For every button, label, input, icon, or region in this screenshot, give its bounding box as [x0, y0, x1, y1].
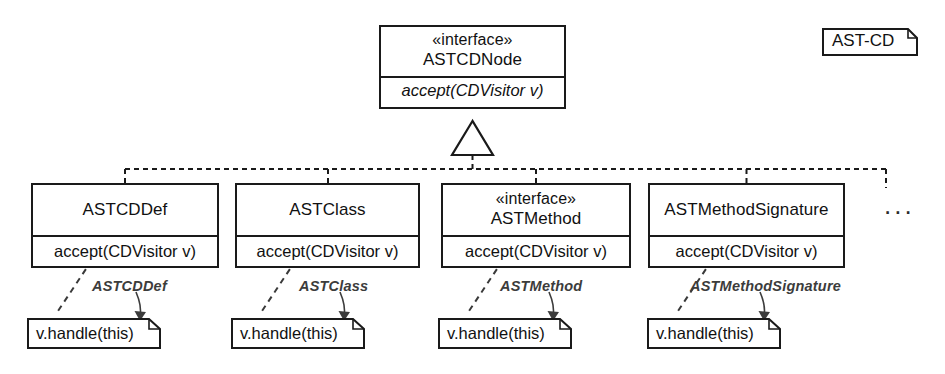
- class-name-label: ASTCDDef: [39, 200, 211, 220]
- more-subclasses-ellipsis: ...: [884, 192, 915, 218]
- class-box-astcdnode[interactable]: «interface» ASTCDNode accept(CDVisitor v…: [379, 25, 566, 109]
- class-box-astcddef[interactable]: ASTCDDef accept(CDVisitor v): [31, 183, 219, 268]
- note-text: v.handle(this): [656, 318, 771, 347]
- operation-accept: accept(CDVisitor v): [381, 78, 564, 107]
- note-annotation-astclass: ASTClass: [299, 278, 368, 294]
- class-name-label: ASTClass: [243, 200, 412, 220]
- anno-arrow-4: [760, 292, 765, 316]
- class-box-astclass[interactable]: ASTClass accept(CDVisitor v): [235, 183, 420, 268]
- diagram-tag-ast-cd[interactable]: AST-CD: [822, 28, 905, 56]
- stereotype-label: «interface»: [387, 31, 558, 50]
- class-name-compartment: ASTMethodSignature: [650, 185, 843, 237]
- class-name-compartment: «interface» ASTMethod: [443, 185, 629, 237]
- diagram-tag-label: AST-CD: [832, 28, 894, 54]
- note-text: v.handle(this): [240, 318, 355, 347]
- anno-arrow-3: [549, 292, 554, 316]
- stereotype-label: «interface»: [449, 190, 623, 209]
- class-name-compartment: «interface» ASTCDNode: [381, 27, 564, 78]
- note-text: v.handle(this): [36, 318, 151, 347]
- note-box-astcddef[interactable]: v.handle(this): [27, 318, 161, 349]
- class-name-compartment: ASTCDDef: [33, 185, 217, 237]
- operation-accept: accept(CDVisitor v): [33, 237, 217, 266]
- anno-arrow-2: [340, 292, 345, 316]
- operation-accept: accept(CDVisitor v): [443, 237, 629, 266]
- note-annotation-astcddef: ASTCDDef: [92, 278, 167, 294]
- note-annotation-astmethod: ASTMethod: [500, 278, 582, 294]
- note-box-astmethodsignature[interactable]: v.handle(this): [647, 318, 781, 349]
- operation-accept: accept(CDVisitor v): [650, 237, 843, 266]
- class-name-label: ASTMethodSignature: [656, 200, 837, 220]
- note-text: v.handle(this): [447, 318, 562, 347]
- note-box-astclass[interactable]: v.handle(this): [231, 318, 365, 349]
- operation-accept: accept(CDVisitor v): [237, 237, 418, 266]
- class-box-astmethod[interactable]: «interface» ASTMethod accept(CDVisitor v…: [441, 183, 631, 268]
- class-name-compartment: ASTClass: [237, 185, 418, 237]
- uml-class-diagram: «interface» ASTCDNode accept(CDVisitor v…: [0, 0, 945, 374]
- note-annotation-astmethodsignature: ASTMethodSignature: [690, 278, 841, 294]
- class-box-astmethodsignature[interactable]: ASTMethodSignature accept(CDVisitor v): [648, 183, 845, 268]
- class-name-label: ASTMethod: [449, 209, 623, 229]
- anno-arrow-1: [136, 292, 141, 316]
- generalization-triangle: [452, 121, 493, 155]
- class-name-label: ASTCDNode: [387, 50, 558, 70]
- note-box-astmethod[interactable]: v.handle(this): [438, 318, 572, 349]
